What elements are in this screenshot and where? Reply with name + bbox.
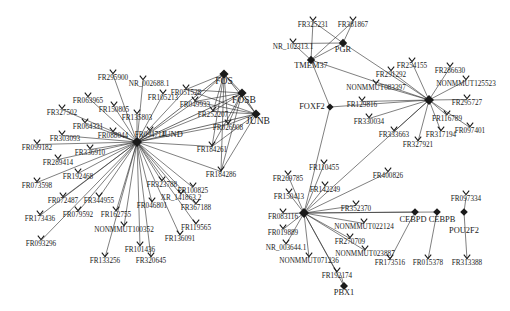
leaf-label: NR_003644.1 — [266, 245, 307, 252]
leaf-arrowhead-icon — [285, 171, 291, 175]
leaf-label: FR083116 — [268, 214, 298, 221]
leaf-arrowhead-icon — [59, 105, 65, 109]
leaf-arrowhead-icon — [409, 58, 415, 62]
leaf-arrowhead-icon — [134, 110, 140, 114]
leaf-arrowhead-icon — [463, 76, 469, 80]
graph-edge — [369, 100, 429, 119]
leaf-arrowhead-icon — [149, 198, 155, 202]
leaf-arrowhead-icon — [75, 207, 81, 211]
graph-edge — [304, 107, 330, 213]
leaf-label: FR026908 — [213, 125, 243, 132]
leaf-label: FR099182 — [22, 145, 52, 152]
leaf-arrowhead-icon — [34, 140, 40, 144]
leaf-label: FR142249 — [310, 187, 340, 194]
leaf-label: NONMMUT023887 — [335, 251, 395, 258]
leaf-label: FR313388 — [452, 260, 482, 267]
leaf-arrowhead-icon — [425, 255, 431, 259]
leaf-label: FR100825 — [178, 188, 208, 195]
leaf-label: FR344955 — [84, 198, 114, 205]
leaf-label: FR116789 — [432, 116, 462, 123]
leaf-arrowhead-icon — [438, 127, 444, 131]
leaf-arrowhead-icon — [353, 201, 359, 205]
leaf-label: FR097334 — [451, 196, 481, 203]
leaf-label: NONMMUT022124 — [334, 224, 394, 231]
leaf-arrowhead-icon — [310, 17, 316, 21]
leaf-label: FR173436 — [25, 216, 55, 223]
leaf-label: FR097401 — [455, 128, 485, 135]
leaf-arrowhead-icon — [306, 253, 312, 257]
leaf-label: FR381867 — [338, 22, 368, 29]
network-graph-figure: FR295900NR_002688.1FR063965FR150805FR105… — [0, 0, 510, 311]
hub-label: JUND — [161, 131, 182, 139]
leaf-label: FR192468 — [63, 174, 93, 181]
hub-label: CEBPB — [429, 216, 456, 224]
leaf-arrowhead-icon — [464, 95, 470, 99]
leaf-label: FR049933 — [180, 102, 210, 109]
leaf-arrowhead-icon — [290, 39, 296, 43]
leaf-label: NONMMUT083397 — [346, 85, 406, 92]
leaf-label: NR_102313.1 — [273, 44, 314, 51]
leaf-label: FR254155 — [397, 63, 427, 70]
leaf-arrowhead-icon — [366, 114, 372, 118]
leaf-label: FR184261 — [197, 147, 227, 154]
leaf-label: FR173516 — [375, 260, 405, 267]
leaf-label: FR135803 — [122, 115, 152, 122]
hub-node-pou2f2[interactable] — [460, 208, 468, 216]
leaf-label: FR333663 — [379, 132, 409, 139]
leaf-label: FR289414 — [43, 160, 73, 167]
hub-label: PGR — [335, 46, 351, 54]
leaf-label: FR295900 — [98, 75, 128, 82]
leaf-arrowhead-icon — [59, 131, 65, 135]
leaf-arrowhead-icon — [447, 63, 453, 67]
leaf-arrowhead-icon — [322, 182, 328, 186]
leaf-label: FR129816 — [347, 102, 377, 109]
hub-label: PBX1 — [334, 289, 354, 297]
leaf-arrowhead-icon — [388, 67, 394, 71]
leaf-arrowhead-icon — [121, 222, 127, 226]
leaf-label: NONMMUT071236 — [279, 258, 339, 265]
graph-edge — [304, 100, 429, 213]
leaf-arrowhead-icon — [334, 268, 340, 272]
leaf-label: FR330034 — [354, 119, 384, 126]
leaf-label: FR336910 — [75, 150, 105, 157]
leaf-arrowhead-icon — [87, 145, 93, 149]
leaf-label: FR291292 — [376, 72, 406, 79]
leaf-arrowhead-icon — [286, 189, 292, 193]
leaf-arrowhead-icon — [111, 102, 117, 106]
leaf-label: FR051528 — [171, 90, 201, 97]
leaf-arrowhead-icon — [55, 155, 61, 159]
leaf-label: FR327502 — [47, 110, 77, 117]
leaf-label: FR400826 — [373, 173, 403, 180]
leaf-label: FR192174 — [322, 273, 352, 280]
leaf-arrowhead-icon — [361, 219, 367, 223]
leaf-label: XR_141863.2 — [161, 195, 202, 202]
leaf-label: FR019889 — [268, 230, 298, 237]
leaf-label: FR110455 — [309, 165, 339, 172]
leaf-arrowhead-icon — [102, 253, 108, 257]
leaf-label: FR367188 — [181, 205, 211, 212]
leaf-label: FR093296 — [26, 241, 56, 248]
hub-node-foxf2[interactable] — [326, 103, 333, 110]
leaf-arrowhead-icon — [183, 85, 189, 89]
leaf-arrowhead-icon — [110, 70, 116, 74]
leaf-label: FR073598 — [22, 183, 52, 190]
leaf-arrowhead-icon — [38, 236, 44, 240]
leaf-arrowhead-icon — [160, 90, 166, 94]
leaf-label: FR079592 — [63, 212, 93, 219]
leaf-label: FR295727 — [452, 100, 482, 107]
graph-edge — [137, 142, 151, 258]
leaf-arrowhead-icon — [110, 128, 116, 132]
leaf-label: FR119565 — [181, 225, 211, 232]
leaf-label: FR064331 — [73, 124, 103, 131]
leaf-label: FR320645 — [136, 258, 166, 265]
leaf-label: FR303093 — [50, 136, 80, 143]
leaf-arrowhead-icon — [463, 191, 469, 195]
leaf-arrowhead-icon — [280, 209, 286, 213]
leaf-label: NONMMUT125523 — [436, 81, 496, 88]
leaf-arrowhead-icon — [96, 193, 102, 197]
leaf-label: FR327921 — [403, 142, 433, 149]
leaf-label: FR270709 — [335, 239, 365, 246]
leaf-label: FR252207 — [198, 112, 228, 119]
leaf-label: FR101436 — [125, 247, 155, 254]
leaf-label: FR286630 — [435, 68, 465, 75]
